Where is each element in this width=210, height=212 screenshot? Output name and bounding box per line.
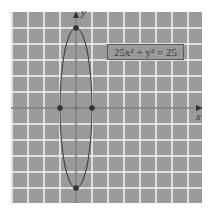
x-axis-label: x — [196, 110, 201, 122]
covertex-right — [89, 105, 95, 111]
graph-plot — [0, 0, 210, 212]
vertex-top — [73, 25, 79, 31]
covertex-left — [57, 105, 63, 111]
vertex-bottom — [73, 185, 79, 191]
equation-label: 25x² + y² = 25 — [107, 44, 184, 60]
y-axis-label: y — [81, 6, 86, 18]
